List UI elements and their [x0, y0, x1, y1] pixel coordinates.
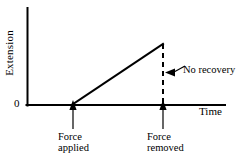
force-removed-line-1: Force: [147, 131, 184, 142]
force-applied-line-2: applied: [58, 142, 89, 153]
creep-curve-line: [73, 44, 163, 104]
creep-curve-figure: Extension 0 Time Force applied Force rem…: [0, 0, 243, 161]
x-axis-title: Time: [199, 106, 222, 118]
force-removed-annotation: Force removed: [147, 131, 184, 154]
origin-label: 0: [14, 98, 20, 110]
no-recovery-annotation: No recovery: [183, 64, 235, 75]
plot-canvas: [0, 0, 243, 161]
force-applied-annotation: Force applied: [58, 131, 89, 154]
no-recovery-arrow-head: [165, 69, 175, 77]
y-axis-title: Extension: [4, 21, 16, 85]
force-removed-line-2: removed: [147, 142, 184, 153]
force-applied-line-1: Force: [58, 131, 89, 142]
